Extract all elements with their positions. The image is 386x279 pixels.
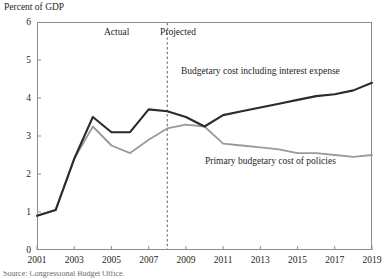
annotation-series-budgetary-cost-with-interest: Budgetary cost including interest expens… <box>181 66 340 77</box>
annotation-projected: Projected <box>160 27 196 38</box>
tick-marks <box>37 60 372 250</box>
series-line-primary-budgetary-cost <box>37 125 372 216</box>
annotation-series-primary-budgetary-cost: Primary budgetary cost of policies <box>205 156 336 167</box>
footnote-text: Source: Congressional Budget Office. <box>3 271 125 279</box>
series-line-budgetary-cost-with-interest <box>37 83 372 216</box>
annotation-actual: Actual <box>104 27 129 38</box>
footnote-strip: Source: Congressional Budget Office. <box>0 271 379 279</box>
